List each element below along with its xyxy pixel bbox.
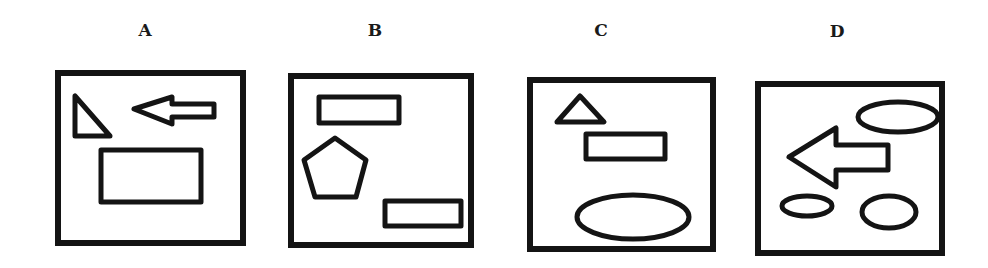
upper-rectangle-shape xyxy=(319,97,399,123)
figure-options: A B C D xyxy=(0,0,988,268)
triangle-shape xyxy=(557,96,604,122)
panel-frame xyxy=(58,73,243,243)
lower-rectangle-shape xyxy=(385,201,461,226)
small-ellipse-shape xyxy=(782,196,832,216)
left-arrow-shape xyxy=(789,128,888,187)
ellipse-shape xyxy=(577,195,689,239)
rectangle-shape xyxy=(586,134,665,159)
panel-c[interactable] xyxy=(530,80,713,249)
panel-d[interactable] xyxy=(758,84,942,253)
rectangle-shape xyxy=(101,150,201,202)
panel-a[interactable] xyxy=(58,73,243,243)
right-ellipse-shape xyxy=(862,196,916,228)
top-ellipse-shape xyxy=(858,102,938,132)
triangle-shape xyxy=(75,96,110,136)
left-arrow-shape xyxy=(134,97,214,124)
panel-b[interactable] xyxy=(291,76,471,245)
pentagon-shape xyxy=(304,138,366,197)
shapes-canvas xyxy=(0,0,988,268)
